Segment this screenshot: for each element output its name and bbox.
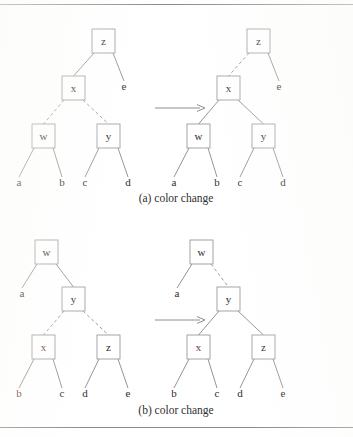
edge-tree-a-before-x-w-dashed <box>44 100 65 124</box>
horizontal-rules-group <box>0 5 353 428</box>
leaf-label-tree-b-after-b: b <box>171 387 177 399</box>
edge-tree-a-after-x-w-solid <box>199 100 220 124</box>
leaf-label-tree-a-before-a: a <box>17 176 22 188</box>
edge-tree-b-before-w-a-solid <box>22 264 37 288</box>
caption-panel-b: (b) color change <box>138 404 213 417</box>
leaf-label-tree-a-after-e: e <box>277 80 282 92</box>
tree-figure-canvas: zxwyabcdezxwyabcdewyxzabcdewyxzabcde (a)… <box>0 0 353 437</box>
edge-tree-a-before-x-y-dashed <box>83 100 109 124</box>
node-label-tree-b-after-z: z <box>261 341 266 353</box>
node-label-tree-a-after-x: x <box>226 82 232 94</box>
leaf-label-tree-b-after-a: a <box>175 287 180 299</box>
node-label-tree-b-before-x: x <box>41 341 47 353</box>
edge-tree-b-after-z-d-solid <box>240 359 254 388</box>
leaf-label-tree-b-before-a: a <box>20 287 25 299</box>
edge-tree-a-after-z-x-dashed <box>229 53 250 76</box>
edge-tree-b-before-x-b-solid <box>19 359 34 388</box>
edge-tree-b-after-y-x-solid <box>199 311 220 335</box>
edge-tree-b-before-y-x-dashed <box>44 311 65 335</box>
node-label-tree-b-after-y: y <box>226 293 232 305</box>
node-label-tree-b-after-w: w <box>198 246 206 258</box>
leaf-label-tree-b-after-e: e <box>281 387 286 399</box>
edge-tree-b-before-z-d-solid <box>85 359 99 388</box>
edge-tree-a-after-x-y-solid <box>238 100 264 124</box>
leaf-label-tree-b-after-c: c <box>215 387 220 399</box>
node-label-tree-a-before-x: x <box>71 82 77 94</box>
edge-tree-a-before-w-b-solid <box>53 148 62 177</box>
edge-tree-b-after-y-z-solid <box>238 311 264 335</box>
edge-tree-b-after-x-c-solid <box>208 359 217 388</box>
node-label-tree-b-before-w: w <box>43 246 51 258</box>
leaf-label-tree-b-before-d: d <box>82 387 88 399</box>
edge-tree-a-after-z-e-solid <box>268 53 279 81</box>
tree-node-labels-group: zxwyabcdezxwyabcdewyxzabcdewyxzabcde <box>16 35 286 399</box>
edge-tree-a-before-z-e-solid <box>113 53 124 81</box>
node-label-tree-a-before-y: y <box>106 130 112 142</box>
node-label-tree-b-before-y: y <box>71 293 77 305</box>
edge-tree-a-before-z-x-solid <box>74 53 95 76</box>
edge-tree-b-before-w-y-solid <box>56 264 74 287</box>
edge-tree-a-after-w-b-solid <box>208 148 217 177</box>
edge-tree-b-before-x-c-solid <box>53 359 62 388</box>
leaf-label-tree-b-before-b: b <box>16 387 22 399</box>
node-label-tree-a-after-z: z <box>256 35 261 47</box>
leaf-label-tree-a-before-e: e <box>122 80 127 92</box>
leaf-label-tree-a-after-b: b <box>214 176 220 188</box>
figure-root: zxwyabcdezxwyabcdewyxzabcdewyxzabcde (a)… <box>0 0 353 437</box>
node-label-tree-a-after-w: w <box>195 130 203 142</box>
leaf-label-tree-b-after-d: d <box>237 387 243 399</box>
leaf-label-tree-a-after-d: d <box>280 176 286 188</box>
leaf-label-tree-a-before-d: d <box>125 176 131 188</box>
edge-tree-b-before-y-z-dashed <box>83 311 109 335</box>
node-label-tree-a-after-y: y <box>261 130 267 142</box>
node-label-tree-b-before-z: z <box>106 341 111 353</box>
edge-tree-a-before-y-c-solid <box>85 148 99 177</box>
edge-tree-a-after-y-d-solid <box>273 148 283 177</box>
node-label-tree-a-before-z: z <box>101 35 106 47</box>
leaf-label-tree-a-after-c: c <box>238 176 243 188</box>
edge-tree-a-after-w-a-solid <box>174 148 189 177</box>
tree-edges-group <box>19 53 283 388</box>
leaf-label-tree-b-before-c: c <box>60 387 65 399</box>
edge-tree-b-after-w-a-solid <box>177 264 192 288</box>
leaf-label-tree-a-before-b: b <box>59 176 65 188</box>
edge-tree-b-after-x-b-solid <box>174 359 189 388</box>
caption-panel-a: (a) color change <box>139 192 214 205</box>
leaf-label-tree-b-before-e: e <box>126 387 131 399</box>
node-label-tree-a-before-w: w <box>40 130 48 142</box>
node-label-tree-b-after-x: x <box>196 341 202 353</box>
leaf-label-tree-a-before-c: c <box>83 176 88 188</box>
edge-tree-a-before-y-d-solid <box>118 148 128 177</box>
edge-tree-b-before-z-e-solid <box>118 359 128 388</box>
edge-tree-a-before-w-a-solid <box>19 148 34 177</box>
edge-tree-b-after-w-y-dashed <box>211 264 229 287</box>
edge-tree-b-after-z-e-solid <box>273 359 283 388</box>
edge-tree-a-after-y-c-solid <box>240 148 254 177</box>
leaf-label-tree-a-after-a: a <box>172 176 177 188</box>
